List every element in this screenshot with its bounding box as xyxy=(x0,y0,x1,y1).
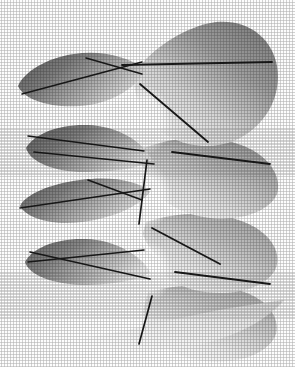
surface-canvas xyxy=(0,0,295,367)
riemann-surface-figure: Riemann surface sheets of a multivalued … xyxy=(0,0,295,367)
